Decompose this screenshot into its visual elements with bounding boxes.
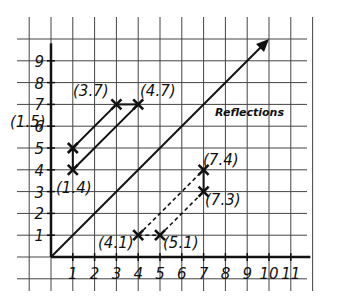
x-tick-label: 9	[242, 265, 252, 283]
point-label-7-3: (7.3)	[205, 191, 241, 209]
x-tick-label: 8	[221, 265, 231, 283]
coordinate-grid: 1234567891011 123456789 Reflections (1.5…	[0, 0, 339, 305]
diagram-title: Reflections	[215, 106, 284, 119]
x-tick-label: 6	[177, 265, 187, 283]
x-tick-label: 1	[68, 265, 78, 283]
y-tick-label: 3	[34, 184, 44, 202]
x-tick-label: 5	[155, 265, 165, 283]
y-tick-label: 4	[34, 162, 44, 180]
y-tick-label: 2	[34, 205, 44, 223]
x-tick-label: 2	[90, 265, 100, 283]
point-label-5-1: (5.1)	[163, 234, 199, 252]
point-label-4-7: (4.7)	[140, 82, 176, 100]
point-label-1-5: (1.5)	[10, 113, 46, 131]
x-tick-label: 3	[112, 265, 122, 283]
y-tick-label: 5	[34, 140, 44, 158]
x-tick-label: 10	[259, 265, 278, 283]
y-tick-label: 8	[34, 75, 44, 93]
x-tick-label: 7	[199, 265, 209, 283]
y-tick-label: 1	[34, 227, 44, 245]
reflections-diagram: 1234567891011 123456789 Reflections (1.5…	[0, 0, 339, 305]
point-label-7-4: (7.4)	[203, 151, 239, 169]
axes	[51, 43, 310, 257]
x-tick-label: 11	[281, 265, 300, 283]
y-tick-label: 9	[34, 53, 44, 71]
y-tick-label: 7	[34, 96, 44, 114]
x-tick-label: 4	[133, 265, 143, 283]
point-label-1-4: (1.4)	[56, 179, 92, 197]
point-label-3-7: (3.7)	[73, 82, 109, 100]
point-label-4-1: (4.1)	[98, 234, 134, 252]
